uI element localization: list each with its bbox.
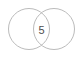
intersection-count-label: 5: [38, 24, 44, 36]
venn-diagram-canvas: 5: [0, 0, 83, 57]
venn-diagram-figure: 5: [0, 0, 83, 57]
